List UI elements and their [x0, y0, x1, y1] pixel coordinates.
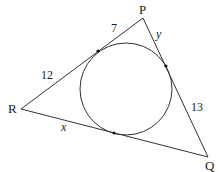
segment-label-7: 7 [111, 21, 117, 35]
triangle-incircle-figure: P R Q 7 12 y 13 x [0, 0, 220, 172]
segment-label-13: 13 [191, 100, 203, 114]
tangent-point-rq [112, 131, 115, 134]
segment-label-y: y [155, 27, 162, 41]
figure-canvas: P R Q 7 12 y 13 x [0, 0, 220, 172]
segment-label-x: x [60, 120, 67, 134]
triangle-pqr [21, 18, 208, 157]
vertex-label-r: R [8, 101, 17, 116]
vertex-label-q: Q [205, 158, 215, 172]
tangent-point-pq [164, 64, 167, 67]
vertex-label-p: P [139, 2, 146, 17]
tangent-point-pr [96, 49, 99, 52]
incircle [80, 43, 172, 135]
segment-label-12: 12 [41, 68, 53, 82]
